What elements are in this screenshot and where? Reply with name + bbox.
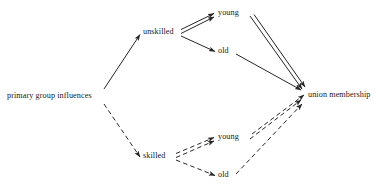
node-unskilled: unskilled: [143, 27, 174, 36]
node-young-skilled: young: [218, 132, 239, 141]
edge-unskilled-to-young-b: [181, 17, 214, 34]
edge-young-unskilled-to-union-a: [250, 16, 302, 89]
edge-unskilled-to-old: [181, 36, 215, 52]
edge-skilled-to-young-a: [176, 138, 214, 154]
node-union-membership: union membership: [308, 90, 370, 99]
path-diagram: primary group influences unskilled skill…: [0, 0, 384, 192]
node-young-unskilled: young: [218, 8, 239, 17]
edge-primary-to-unskilled: [104, 35, 140, 90]
node-primary-group-influences: primary group influences: [7, 91, 92, 100]
node-old-unskilled: old: [218, 46, 229, 55]
edge-old-unskilled-to-union: [236, 54, 301, 90]
node-skilled: skilled: [143, 151, 165, 160]
edge-young-skilled-to-union-b: [252, 95, 304, 134]
edge-skilled-to-old: [176, 160, 215, 176]
edge-old-skilled-to-union: [236, 104, 302, 174]
edge-primary-to-skilled: [104, 104, 140, 157]
node-old-skilled: old: [218, 170, 229, 179]
edge-young-unskilled-to-union-b: [254, 15, 305, 88]
edge-young-skilled-to-union-a: [250, 100, 301, 139]
edge-skilled-to-young-b: [176, 141, 214, 158]
edge-unskilled-to-young-a: [181, 14, 214, 30]
